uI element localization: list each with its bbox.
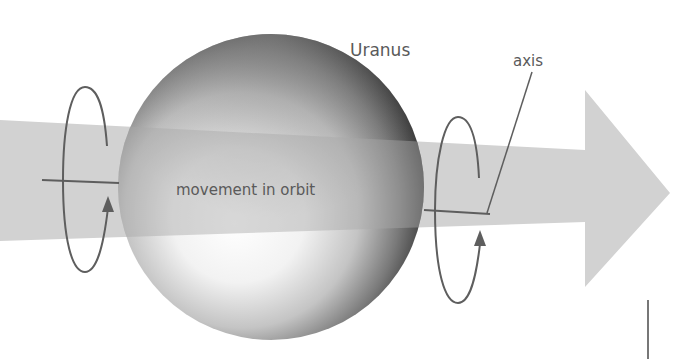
label-axis: axis — [513, 52, 543, 70]
label-uranus: Uranus — [350, 40, 410, 60]
label-movement-in-orbit: movement in orbit — [176, 181, 315, 199]
uranus-axis-diagram: Uranus axis movement in orbit — [0, 0, 691, 359]
right-rotation-arrowhead-icon — [474, 230, 486, 246]
